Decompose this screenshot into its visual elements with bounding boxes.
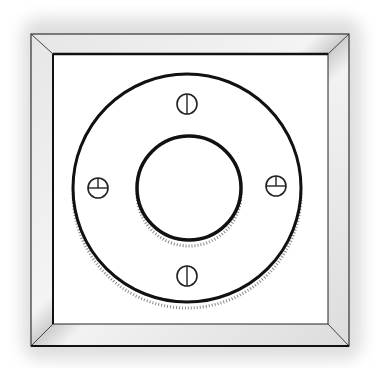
- screw-right: [266, 176, 286, 196]
- screw-left: [88, 178, 108, 198]
- flange-plate-drawing: [0, 0, 376, 368]
- screw-bottom: [177, 266, 197, 286]
- screw-top: [177, 94, 197, 114]
